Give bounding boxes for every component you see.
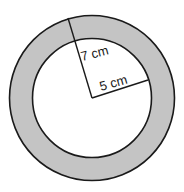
ring-diagram: 7 cm 5 cm [0,0,184,192]
